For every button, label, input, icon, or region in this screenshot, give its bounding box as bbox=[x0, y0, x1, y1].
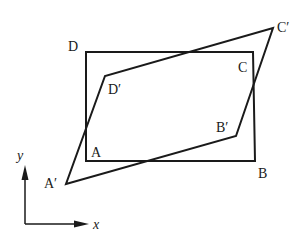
x-axis-arrow-icon bbox=[74, 221, 89, 228]
rectangle-abcd bbox=[86, 52, 255, 161]
label-b: B bbox=[258, 166, 267, 181]
label-d-prime: D′ bbox=[108, 82, 121, 97]
label-c: C bbox=[238, 60, 247, 75]
label-b-prime: B′ bbox=[216, 120, 228, 135]
label-d: D bbox=[68, 39, 78, 54]
deformation-diagram: y x A B C D A′ B′ C′ D′ bbox=[0, 0, 306, 238]
label-c-prime: C′ bbox=[277, 20, 289, 35]
x-axis-label: x bbox=[92, 217, 100, 232]
label-a-prime: A′ bbox=[44, 176, 57, 191]
y-axis-label: y bbox=[15, 148, 24, 163]
y-axis-arrow-icon bbox=[22, 165, 29, 180]
label-a: A bbox=[91, 145, 102, 160]
